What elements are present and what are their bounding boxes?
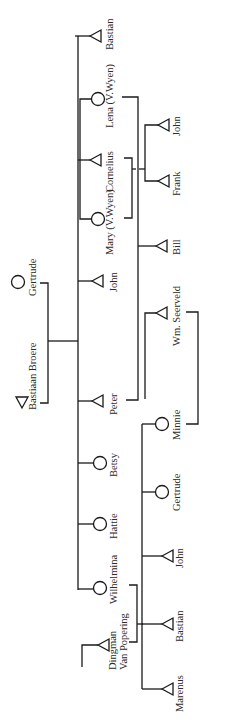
person-label: Cornelius (104, 151, 115, 192)
person-gc-bastian-male-icon (162, 618, 173, 630)
branch-line (80, 160, 92, 219)
person-john-male-icon (92, 275, 103, 287)
person-cornelius-male-icon (90, 154, 101, 166)
grandchildren-line (145, 125, 160, 181)
spouse-seerveld: Wm. Seerveld (145, 285, 198, 424)
person-betsy-female-icon (94, 457, 107, 470)
person-label: Lena (V.Wyen) (104, 64, 116, 128)
person-label-line1: Dingman (107, 630, 118, 670)
person-label: Minnie (171, 409, 182, 440)
marriage-bracket-mary (124, 158, 132, 218)
person-label: Peter (108, 393, 119, 415)
person-label: John (108, 271, 119, 292)
person-label: Wilhelmina (108, 555, 119, 604)
person-label: Hattie (108, 513, 119, 539)
children-generation: Bastian Lena (V.Wyen) Cornelius Mary (V.… (75, 18, 119, 604)
person-gc-john-male-icon (158, 119, 169, 131)
person-bastian-male-icon (90, 30, 101, 42)
person-peter-male-icon (92, 395, 103, 407)
person-label: Frank (171, 171, 182, 196)
cornelius-family: John Frank (122, 97, 182, 240)
branch-line (80, 99, 92, 160)
person-gc-minnie-female-icon (156, 418, 169, 431)
person-wilhelmina-female-icon (94, 582, 107, 595)
family-tree-diagram: Gertrude Bastiaan Broere Bastian Lena (V… (0, 0, 225, 726)
van-popering-children: Minnie Gertrude John Bastian Marenus (142, 409, 185, 712)
person-label: John (174, 547, 185, 568)
marriage-bracket (186, 312, 198, 424)
person-label: Mary (V.Wyen) (104, 189, 116, 255)
person-label: John (171, 115, 182, 136)
person-label-line2: Van Popering (118, 612, 129, 670)
person-label: Marenus (174, 675, 185, 712)
person-gc-gertrude-female-icon (156, 486, 169, 499)
spouse-line (82, 645, 98, 667)
person-gertrude-sr-female-icon (12, 276, 25, 289)
person-gc-bill-male-icon (156, 240, 167, 252)
person-label: Gertrude (171, 473, 182, 511)
person-mary-female-icon (92, 213, 105, 226)
person-label: Bastiaan Broere (27, 342, 38, 410)
person-label: Bastian (174, 610, 185, 642)
person-label: Gertrude (27, 258, 38, 296)
person-label: Bastian (104, 18, 115, 50)
person-label: Wm. Seerveld (171, 285, 182, 346)
marriage-bracket (40, 283, 48, 403)
parents-couple: Gertrude Bastiaan Broere (12, 258, 79, 410)
spouse-line (145, 313, 156, 399)
person-label: Betsy (108, 452, 119, 477)
marriage-bracket (129, 585, 137, 642)
person-gc-john2-male-icon (162, 550, 173, 562)
descent-line (126, 240, 138, 400)
person-gc-frank-male-icon (158, 175, 169, 187)
person-label: Bill (171, 239, 182, 255)
person-gc-marenus-male-icon (162, 683, 173, 695)
person-hattie-female-icon (94, 518, 107, 531)
person-wm-seerveld-male-icon (156, 307, 167, 319)
person-lena-female-icon (92, 93, 105, 106)
